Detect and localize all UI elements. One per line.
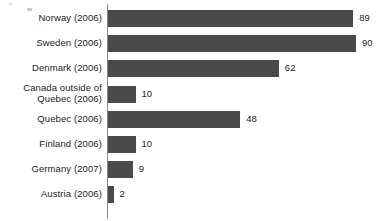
bar-category-label: Austria (2006) — [0, 185, 102, 199]
bar-chart: Norway (2006)89Sweden (2006)90Denmark (2… — [0, 0, 386, 221]
bar — [108, 10, 353, 27]
bar-value-label: 10 — [142, 137, 153, 150]
bar-row: Quebec (2006)48 — [0, 110, 386, 135]
bar-value-label: 2 — [120, 187, 125, 200]
bar-category-label: Canada outside ofQuebec (2006) — [0, 79, 102, 104]
bar-category-label-line: Quebec (2006) — [0, 113, 102, 124]
bar — [108, 111, 240, 128]
bar-value-label: 9 — [139, 162, 144, 175]
bar-category-label: Norway (2006) — [0, 9, 102, 23]
bar-category-label-line: Norway (2006) — [0, 12, 102, 23]
bar-category-label-line: Denmark (2006) — [0, 62, 102, 73]
bar — [108, 60, 279, 77]
bar-row: Sweden (2006)90 — [0, 34, 386, 59]
bar-category-label-line: Germany (2007) — [0, 163, 102, 174]
bar-row: Austria (2006)2 — [0, 185, 386, 210]
bar — [108, 136, 136, 153]
bar-category-label: Quebec (2006) — [0, 110, 102, 124]
bar — [108, 86, 136, 103]
bar-row: Canada outside ofQuebec (2006)10 — [0, 85, 386, 110]
bar-category-label-line: Sweden (2006) — [0, 37, 102, 48]
bar — [108, 35, 356, 52]
bar-category-label: Finland (2006) — [0, 135, 102, 149]
bar-category-label-line: Quebec (2006) — [0, 93, 102, 104]
bar — [108, 186, 114, 203]
bar-category-label: Germany (2007) — [0, 160, 102, 174]
bar-category-label-line: Canada outside of — [0, 82, 102, 93]
bar-category-label-line: Finland (2006) — [0, 138, 102, 149]
bar-value-label: 48 — [246, 112, 257, 125]
bar-row: Finland (2006)10 — [0, 135, 386, 160]
bar-category-label-line: Austria (2006) — [0, 188, 102, 199]
bar-value-label: 62 — [285, 61, 296, 74]
bar-value-label: 90 — [362, 36, 373, 49]
bar-value-label: 10 — [142, 87, 153, 100]
plot-area: Norway (2006)89Sweden (2006)90Denmark (2… — [0, 0, 386, 221]
bar-row: Norway (2006)89 — [0, 9, 386, 34]
bar-category-label: Denmark (2006) — [0, 59, 102, 73]
bar — [108, 161, 133, 178]
bar-row: Germany (2007)9 — [0, 160, 386, 185]
bar-value-label: 89 — [359, 11, 370, 24]
bar-category-label: Sweden (2006) — [0, 34, 102, 48]
